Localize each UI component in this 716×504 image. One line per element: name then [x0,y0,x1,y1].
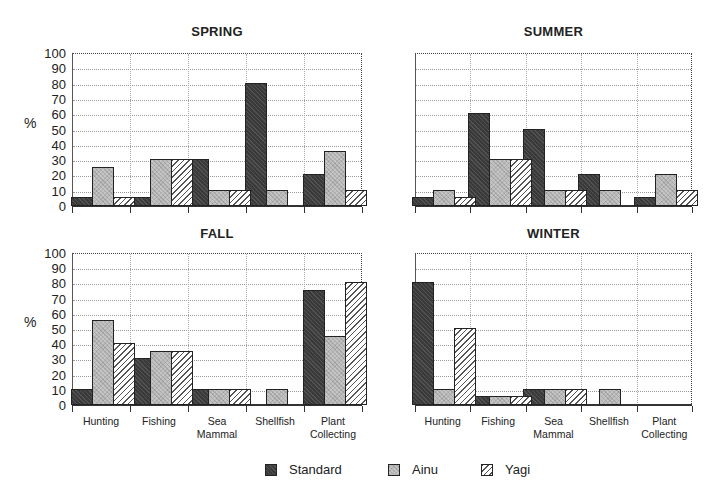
y-axis-label: % [24,314,36,330]
bar-ainu [655,174,677,206]
bar-standard [468,113,490,206]
x-axis-tick [415,207,416,213]
gridline-horizontal [416,300,691,301]
gridline-horizontal [416,146,691,147]
bar-standard [634,197,656,206]
y-tick-label: 60 [36,108,66,121]
legend-item-yagi: Yagi [481,462,530,477]
fall-plot-area [72,253,362,406]
y-tick-label: 100 [36,247,66,260]
summer-plot-area [415,53,692,207]
x-axis-tick [304,406,305,412]
bar-ainu [266,389,288,405]
y-tick-label: 90 [36,262,66,275]
x-category-label-line2: Collecting [631,428,697,441]
bar-ainu [489,396,511,405]
x-axis-tick [188,207,189,213]
gridline-horizontal [73,131,361,132]
bar-standard [71,197,93,206]
gridline-vertical [581,254,582,405]
bar-yagi [454,197,476,206]
gridline-horizontal [73,161,361,162]
bar-ainu [544,389,566,405]
bar-yagi [454,328,476,405]
gridline-vertical [637,254,638,405]
x-axis-tick [72,406,73,412]
bar-ainu [208,190,230,206]
y-tick-label: 50 [36,124,66,137]
y-tick-label: 30 [36,154,66,167]
x-axis-tick [188,406,189,412]
bar-yagi [113,343,135,405]
spring-plot-area [72,53,362,207]
x-axis-tick [526,406,527,412]
bar-ainu [208,389,230,405]
gridline-horizontal [416,161,691,162]
x-axis-tick [581,406,582,412]
x-category-label-line1: Plant [300,415,366,428]
legend-item-standard: Standard [265,462,342,477]
x-category-label: PlantCollecting [631,415,697,441]
legend-label-ainu: Ainu [412,462,438,477]
fall-panel-title: FALL [117,226,317,241]
x-axis-tick [72,207,73,213]
x-category-label-line2: Mammal [521,428,587,441]
legend-label-standard: Standard [289,462,342,477]
bar-standard [303,290,325,405]
legend: Standard Ainu Yagi [0,462,716,482]
summer-panel-title: SUMMER [454,24,654,39]
x-category-label: Fishing [126,415,192,428]
x-category-label-line1: Fishing [126,415,192,428]
gridline-horizontal [416,176,691,177]
gridline-horizontal [73,115,361,116]
y-tick-label: 30 [36,353,66,366]
gridline-horizontal [416,69,691,70]
gridline-horizontal [416,131,691,132]
y-tick-label: 100 [36,47,66,60]
x-axis-tick [526,207,527,213]
x-axis-tick [304,207,305,213]
spring-panel-title: SPRING [117,24,317,39]
bar-yagi [229,389,251,405]
y-tick-label: 70 [36,93,66,106]
bar-ainu [92,167,114,206]
gridline-horizontal [416,85,691,86]
bar-ainu [266,190,288,206]
bar-ainu [324,151,346,206]
y-tick-label: 20 [36,369,66,382]
bar-yagi [345,190,367,206]
bar-yagi [565,190,587,206]
x-axis-tick [362,406,363,412]
x-axis-tick [362,207,363,213]
gridline-horizontal [73,284,361,285]
x-axis-tick [130,207,131,213]
gridline-vertical [637,54,638,206]
legend-item-ainu: Ainu [388,462,438,477]
x-category-label-line2: Collecting [300,428,366,441]
x-axis-tick [246,207,247,213]
x-category-label-line1: Sea [184,415,250,428]
bar-yagi [229,190,251,206]
ainu-swatch-icon [388,464,400,476]
gridline-horizontal [416,100,691,101]
x-axis-tick [246,406,247,412]
bar-standard [71,389,93,405]
y-tick-label: 50 [36,323,66,336]
x-category-label-line1: Hunting [68,415,134,428]
x-category-label: Hunting [68,415,134,428]
gridline-vertical [526,254,527,405]
bar-standard [303,174,325,206]
bar-ainu [324,336,346,405]
y-tick-label: 80 [36,277,66,290]
x-axis-tick [470,406,471,412]
standard-swatch-icon [265,464,277,476]
y-tick-label: 70 [36,293,66,306]
gridline-horizontal [416,115,691,116]
gridline-horizontal [73,69,361,70]
gridline-horizontal [416,315,691,316]
y-tick-label: 0 [36,399,66,412]
gridline-horizontal [416,269,691,270]
gridline-vertical [246,254,247,405]
x-axis-tick [470,207,471,213]
y-tick-label: 60 [36,308,66,321]
